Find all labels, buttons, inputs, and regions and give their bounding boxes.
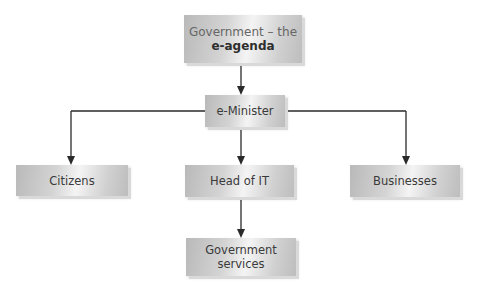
node-label-line1: Government – the <box>189 25 297 39</box>
node-label-line2: e-agenda <box>211 39 274 53</box>
node-label-line1: Government <box>205 243 277 257</box>
node-label: Citizens <box>49 174 94 188</box>
arrow-head <box>402 156 410 165</box>
arrow-head <box>67 156 75 165</box>
arrow-head <box>237 86 245 95</box>
arrow-head <box>237 156 245 165</box>
node-label-line2: services <box>217 257 264 271</box>
node-government-services: Government services <box>186 238 296 276</box>
node-government-e-agenda: Government – the e-agenda <box>184 15 302 63</box>
node-citizens: Citizens <box>16 165 128 196</box>
node-label: e-Minister <box>216 104 273 118</box>
node-businesses: Businesses <box>350 165 460 197</box>
node-label: Businesses <box>373 174 437 188</box>
node-label: Head of IT <box>210 174 269 188</box>
node-head-of-it: Head of IT <box>185 165 294 197</box>
arrow-head <box>237 229 245 238</box>
node-e-minister: e-Minister <box>205 95 285 127</box>
